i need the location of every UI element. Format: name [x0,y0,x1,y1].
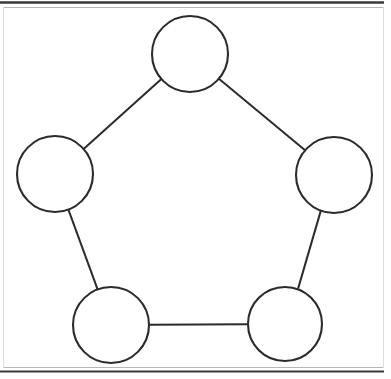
node-right-circle[interactable] [296,137,372,213]
diagram-canvas [0,0,391,379]
node-bottom-right-circle[interactable] [248,287,322,361]
node-bottom-left[interactable] [73,287,149,363]
node-bottom-right[interactable] [248,287,322,361]
node-left[interactable] [17,136,93,212]
node-right[interactable] [296,137,372,213]
node-top[interactable] [152,16,228,92]
pentagon-diagram [0,0,391,379]
node-top-circle[interactable] [152,16,228,92]
node-left-circle[interactable] [17,136,93,212]
edge-bottom-left-bottom-right[interactable] [149,324,248,325]
node-bottom-left-circle[interactable] [73,287,149,363]
